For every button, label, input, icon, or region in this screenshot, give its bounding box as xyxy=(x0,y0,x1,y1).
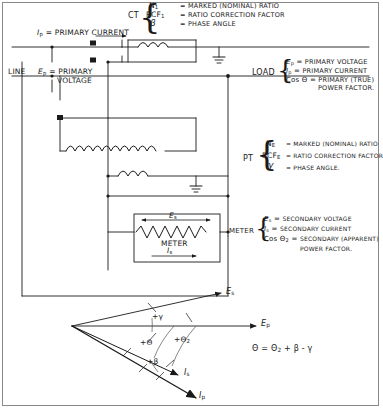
phasor-angle-gamma: +γ xyxy=(152,313,163,321)
ct-row-2-symbol: β xyxy=(150,19,156,28)
phasor-label-ip: Ip xyxy=(199,392,205,400)
ct-row-1-text: = RATIO CORRECTION FACTOR xyxy=(180,12,285,19)
primary-voltage-label-2: VOLTAGE xyxy=(57,77,92,85)
meter-device-label: METER xyxy=(229,228,254,235)
line-label: LINE xyxy=(8,68,26,76)
pt-row-0-symbol: NE xyxy=(266,140,275,149)
phasor-label-es: Es xyxy=(226,288,234,296)
meter-box-voltage-label: Es xyxy=(169,212,177,221)
phasor-angle-theta: +Θ xyxy=(140,339,153,347)
phasor-vectors xyxy=(72,293,256,398)
load-row-1: Ip = PRIMARY CURRENT xyxy=(286,68,367,75)
phasor-angle-beta: +β xyxy=(147,358,158,366)
load-row-2-cont: POWER FACTOR. xyxy=(318,85,374,92)
primary-current-label: Ip = PRIMARY CURRENT xyxy=(37,29,129,38)
meter-box-current-label: Is xyxy=(167,247,172,256)
phasor-angle-theta2: +Θ2 xyxy=(174,336,190,345)
ct-row-0-text: = MARKED (NOMINAL) RATIO xyxy=(180,3,279,10)
meter-row-1: Is = SECONDARY CURRENT xyxy=(264,226,351,233)
phasor-equation: Θ = Θ2 + β - γ xyxy=(252,345,312,353)
pt-row-2-text: = PHASE ANGLE. xyxy=(286,165,340,171)
meter-row-2: Cos Θ2 = SECONDARY (APPARENT) xyxy=(264,236,379,243)
pt-row-1-text: = RATIO CORRECTION FACTOR xyxy=(286,153,383,159)
meter-box-name: METER xyxy=(161,240,188,248)
meter-row-2-cont: POWER FACTOR. xyxy=(300,246,352,252)
pt-row-2-symbol: γ xyxy=(268,161,274,170)
pt-row-0-text: = MARKED (NOMINAL) RATIO xyxy=(286,141,378,147)
phasor-label-is: Is xyxy=(184,369,190,377)
pt-device-label: PT xyxy=(243,155,253,163)
phasor-label-ep: Ep xyxy=(261,320,270,328)
load-device-label: LOAD xyxy=(252,69,275,77)
meter-row-0: Es = SECONDARY VOLTAGE xyxy=(264,216,352,223)
ct-row-2-text: = PHASE ANGLE xyxy=(180,21,236,28)
ct-device-label: CT xyxy=(128,12,139,20)
load-row-0: Ep = PRIMARY VOLTAGE xyxy=(286,59,368,66)
